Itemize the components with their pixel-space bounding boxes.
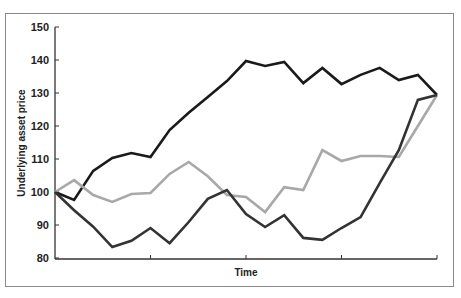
series-line-path-dark bbox=[55, 95, 437, 247]
y-tick-label: 130 bbox=[31, 87, 49, 99]
y-tick-label: 140 bbox=[31, 54, 49, 66]
y-tick-label: 80 bbox=[37, 252, 49, 264]
x-axis bbox=[55, 255, 437, 259]
y-tick-label: 90 bbox=[37, 219, 49, 231]
series-line-path-black bbox=[55, 61, 437, 200]
line-chart: 8090100110120130140150 Time Underlying a… bbox=[0, 0, 461, 298]
y-tick-label: 120 bbox=[31, 120, 49, 132]
y-tick-label: 100 bbox=[31, 186, 49, 198]
plot-lines bbox=[55, 61, 437, 247]
y-axis-title: Underlying asset price bbox=[16, 89, 27, 197]
x-axis-title: Time bbox=[234, 267, 258, 278]
y-axis: 8090100110120130140150 bbox=[31, 21, 59, 264]
series-line-path-gray bbox=[55, 95, 437, 212]
y-tick-label: 150 bbox=[31, 21, 49, 33]
y-tick-label: 110 bbox=[31, 153, 49, 165]
